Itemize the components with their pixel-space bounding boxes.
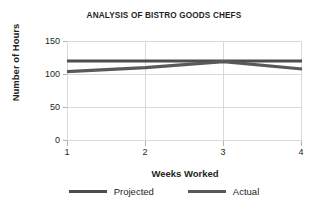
chart-container: ANALYSIS OF BISTRO GOODS CHEFS Number of… <box>0 0 328 215</box>
legend-item-actual[interactable]: Actual <box>188 186 259 197</box>
x-tick-label-1: 1 <box>55 147 79 157</box>
x-tick-mark-2 <box>145 141 146 146</box>
y-tick-label-0: 0 <box>28 135 60 145</box>
x-tick-mark-4 <box>301 141 302 146</box>
legend-label-projected: Projected <box>114 186 154 197</box>
chart-legend: Projected Actual <box>0 186 328 197</box>
y-tick-label-150: 150 <box>28 36 60 46</box>
x-axis-title: Weeks Worked <box>67 168 303 179</box>
y-tick-label-100: 100 <box>28 69 60 79</box>
x-tick-mark-3 <box>223 141 224 146</box>
legend-line-icon-actual <box>188 190 226 193</box>
legend-item-projected[interactable]: Projected <box>69 186 154 197</box>
x-tick-mark-1 <box>67 141 68 146</box>
series-lines <box>67 41 302 141</box>
y-tick-mark-150 <box>63 41 67 42</box>
y-tick-label-50: 50 <box>28 102 60 112</box>
plot-area <box>67 41 302 141</box>
series-line-actual <box>67 62 302 72</box>
y-tick-mark-50 <box>63 107 67 108</box>
x-tick-label-3: 3 <box>211 147 235 157</box>
x-tick-label-2: 2 <box>133 147 157 157</box>
y-tick-mark-100 <box>63 74 67 75</box>
y-axis-title: Number of Hours <box>10 18 21 108</box>
chart-title: ANALYSIS OF BISTRO GOODS CHEFS <box>0 11 328 20</box>
legend-label-actual: Actual <box>233 186 259 197</box>
legend-line-icon-projected <box>69 190 107 193</box>
x-tick-label-4: 4 <box>289 147 313 157</box>
